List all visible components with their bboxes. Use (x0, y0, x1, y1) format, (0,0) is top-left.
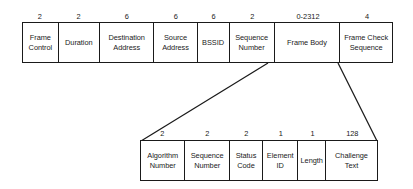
frame-field-cell: Destination Address (100, 23, 154, 62)
frame-field-cell: Sequence Number (185, 141, 229, 180)
frame-field-label: Element ID (267, 151, 294, 170)
authentication-frame-body-row: Algorithm NumberSequence NumberStatus Co… (140, 140, 378, 181)
frame-field-size: 6 (99, 12, 154, 22)
frame-field-size: 4 (341, 12, 393, 22)
frame-field-label: Sequence Number (191, 151, 224, 170)
frame-field-cell: Challenge Text (326, 141, 377, 180)
frame-field-size: 1 (263, 129, 298, 139)
frame-field-cell: BSSID (198, 23, 230, 62)
frame-field-size: 2 (185, 129, 230, 139)
frame-field-label: BSSID (202, 38, 224, 47)
frame-field-label: Challenge Text (335, 151, 368, 170)
frame-field-size: 2 (230, 129, 264, 139)
frame-field-size: 6 (198, 12, 230, 22)
frame-field-label: Duration (65, 38, 93, 47)
frame-field-size: 6 (154, 12, 197, 22)
frame-field-cell: Length (298, 141, 326, 180)
frame-field-size: 1 (299, 129, 327, 139)
frame-field-size: 2 (58, 12, 100, 22)
frame-field-cell: Frame Body (275, 23, 341, 62)
frame-field-cell: Frame Check Sequence (340, 23, 392, 62)
mac-frame-row: Frame ControlDurationDestination Address… (22, 22, 393, 63)
frame-field-label: Frame Body (287, 38, 327, 47)
frame-field-cell: Status Code (230, 141, 263, 180)
expanded-frame-size-labels: 22211128 (140, 129, 378, 139)
frame-field-label: Sequence Number (235, 33, 268, 52)
frame-field-label: Frame Check Sequence (344, 33, 388, 52)
frame-field-label: Status Code (236, 151, 257, 170)
frame-field-label: Frame Control (29, 33, 52, 52)
frame-field-size: 0-2312 (275, 12, 341, 22)
frame-field-label: Source Address (162, 33, 189, 52)
frame-field-label: Length (301, 156, 323, 165)
frame-field-cell: Algorithm Number (141, 141, 185, 180)
frame-field-cell: Sequence Number (230, 23, 275, 62)
frame-format-diagram: 2266620-23124 Frame ControlDurationDesti… (0, 0, 413, 189)
frame-field-cell: Source Address (154, 23, 197, 62)
frame-field-size: 128 (327, 129, 378, 139)
frame-field-size: 2 (230, 12, 275, 22)
frame-field-label: Algorithm Number (147, 151, 178, 170)
frame-field-label: Destination Address (108, 33, 144, 52)
frame-field-size: 2 (140, 129, 185, 139)
frame-field-cell: Element ID (263, 141, 298, 180)
frame-field-size: 2 (22, 12, 58, 22)
frame-field-cell: Frame Control (23, 23, 59, 62)
frame-field-cell: Duration (59, 23, 100, 62)
top-frame-size-labels: 2266620-23124 (22, 12, 393, 22)
